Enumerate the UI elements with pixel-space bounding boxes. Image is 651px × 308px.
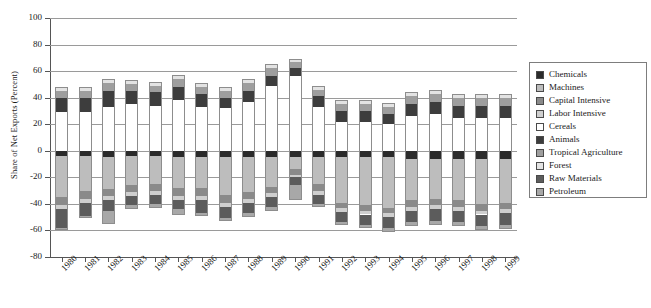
y-axis-tick-label: 100 — [14, 12, 42, 22]
bar-1999 — [499, 18, 512, 257]
y-axis-tick-label: -40 — [14, 198, 42, 208]
bar-1988 — [242, 18, 255, 257]
legend-item: Raw Materials — [536, 172, 642, 185]
bar-1981 — [79, 18, 92, 257]
legend-swatch-icon — [536, 97, 544, 105]
bar-outline — [382, 103, 395, 232]
plot-frame — [50, 18, 517, 257]
bar-outline — [172, 75, 185, 214]
chart-container: Share of Net Exports (Percent) 100806040… — [0, 0, 651, 308]
bar-outline — [79, 87, 92, 218]
bar-1993 — [359, 18, 372, 257]
bar-outline — [405, 92, 418, 226]
legend-label: Tropical Agriculture — [549, 148, 622, 157]
legend-swatch-icon — [536, 110, 544, 118]
bar-1991 — [312, 18, 325, 257]
bar-1997 — [452, 18, 465, 257]
y-axis-tick — [45, 151, 50, 152]
gridline — [50, 18, 517, 19]
bar-1987 — [219, 18, 232, 257]
bar-outline — [289, 59, 302, 200]
legend-swatch-icon — [536, 84, 544, 92]
legend-item: Tropical Agriculture — [536, 146, 642, 159]
gridline — [50, 98, 517, 99]
gridline — [50, 177, 517, 178]
bar-outline — [102, 79, 115, 224]
legend-item: Labor Intensive — [536, 107, 642, 120]
legend-item: Forest — [536, 159, 642, 172]
gridline — [50, 124, 517, 125]
y-axis-tick-label: -60 — [14, 224, 42, 234]
gridline — [50, 151, 517, 152]
legend-item: Petroleum — [536, 185, 642, 198]
y-axis-tick — [45, 45, 50, 46]
bar-outline — [429, 90, 442, 225]
legend-swatch-icon — [536, 149, 544, 157]
bar-outline — [475, 94, 488, 231]
legend-item: Machines — [536, 81, 642, 94]
bar-outline — [265, 64, 278, 210]
bar-outline — [452, 94, 465, 227]
y-axis-tick — [45, 230, 50, 231]
legend-label: Raw Materials — [549, 174, 602, 183]
y-axis-tick — [45, 204, 50, 205]
legend-swatch-icon — [536, 71, 544, 79]
y-axis-tick-label: 40 — [14, 92, 42, 102]
y-axis-line — [50, 18, 51, 257]
gridline — [50, 71, 517, 72]
legend-item: Chemicals — [536, 68, 642, 81]
bar-1995 — [405, 18, 418, 257]
legend-label: Capital Intensive — [549, 96, 610, 105]
bar-1980 — [55, 18, 68, 257]
legend-label: Cereals — [549, 122, 576, 131]
legend-item: Animals — [536, 133, 642, 146]
y-axis-tick-label: 60 — [14, 65, 42, 75]
bar-outline — [149, 82, 162, 208]
bar-1985 — [172, 18, 185, 257]
bar-1990 — [289, 18, 302, 257]
legend-swatch-icon — [536, 162, 544, 170]
gridline — [50, 45, 517, 46]
legend-label: Chemicals — [549, 70, 587, 79]
legend-item: Capital Intensive — [536, 94, 642, 107]
bar-1984 — [149, 18, 162, 257]
bar-outline — [219, 87, 232, 221]
y-axis-tick — [45, 177, 50, 178]
legend-swatch-icon — [536, 136, 544, 144]
bar-outline — [312, 86, 325, 207]
bar-outline — [499, 94, 512, 229]
y-axis-tick-label: 20 — [14, 118, 42, 128]
gridline — [50, 204, 517, 205]
legend-label: Labor Intensive — [549, 109, 606, 118]
bar-outline — [195, 83, 208, 216]
bar-1983 — [125, 18, 138, 257]
bar-outline — [125, 80, 138, 209]
gridline — [50, 230, 517, 231]
bar-1992 — [335, 18, 348, 257]
legend-label: Forest — [549, 161, 572, 170]
bar-1986 — [195, 18, 208, 257]
bar-1982 — [102, 18, 115, 257]
plot-area — [50, 18, 517, 257]
y-axis-tick — [45, 71, 50, 72]
y-axis-tick-label: 0 — [14, 145, 42, 155]
bar-outline — [55, 87, 68, 230]
y-axis-tick — [45, 18, 50, 19]
y-axis-tick — [45, 124, 50, 125]
legend-swatch-icon — [536, 123, 544, 131]
bar-outline — [335, 100, 348, 225]
bar-1994 — [382, 18, 395, 257]
y-axis-tick — [45, 98, 50, 99]
bar-outline — [359, 100, 372, 227]
legend-swatch-icon — [536, 175, 544, 183]
bar-outline — [242, 79, 255, 217]
legend-label: Petroleum — [549, 187, 586, 196]
y-axis-tick-label: -20 — [14, 171, 42, 181]
y-axis-tick-label: 80 — [14, 39, 42, 49]
legend: ChemicalsMachinesCapital IntensiveLabor … — [529, 62, 647, 198]
bar-1996 — [429, 18, 442, 257]
bar-1998 — [475, 18, 488, 257]
y-axis-tick-label: -80 — [14, 251, 42, 261]
legend-swatch-icon — [536, 188, 544, 196]
bar-1989 — [265, 18, 278, 257]
